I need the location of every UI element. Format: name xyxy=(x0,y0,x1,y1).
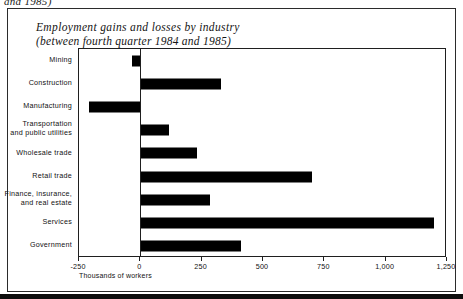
bar-row xyxy=(79,119,445,142)
y-axis-label: Transportationand public utilities xyxy=(1,121,72,138)
zero-axis-line xyxy=(140,49,141,256)
x-axis-tick xyxy=(201,257,202,261)
x-axis-tick xyxy=(385,257,386,261)
bar-row xyxy=(79,142,445,165)
y-axis-label: Mining xyxy=(1,55,72,64)
bar xyxy=(140,125,168,136)
y-axis-label: Finance, insurance,and real estate xyxy=(1,190,72,207)
x-axis-tick xyxy=(262,257,263,261)
x-axis-tick-label: -250 xyxy=(70,262,85,271)
y-axis-label: Manufacturing xyxy=(1,102,72,111)
bar xyxy=(140,218,433,229)
y-axis-label: Retail trade xyxy=(1,171,72,180)
y-axis-label: Wholesale trade xyxy=(1,148,72,157)
x-axis-tick xyxy=(323,257,324,261)
bar xyxy=(140,148,196,159)
bar xyxy=(140,171,312,182)
cutoff-preceding-text: and 1985) xyxy=(4,0,52,7)
chart-title-line-2: (between fourth quarter 1984 and 1985) xyxy=(36,34,240,48)
bar-row xyxy=(79,188,445,211)
x-axis-tick-label: 1,250 xyxy=(437,262,456,271)
x-axis-tick-label: 500 xyxy=(256,262,269,271)
chart-title: Employment gains and losses by industry … xyxy=(36,20,240,48)
bar xyxy=(89,102,141,113)
bar-row xyxy=(79,165,445,188)
y-axis-label: Government xyxy=(1,241,72,250)
bar xyxy=(140,241,241,252)
x-axis-tick-label: 750 xyxy=(317,262,330,271)
chart-title-line-1: Employment gains and losses by industry xyxy=(36,20,240,34)
x-axis-tick xyxy=(139,257,140,261)
plot-area xyxy=(78,48,446,257)
bar-row xyxy=(79,212,445,235)
x-axis-caption: Thousands of workers xyxy=(79,272,152,279)
x-axis-tick-label: 1,000 xyxy=(375,262,394,271)
page-bottom-edge xyxy=(0,294,463,299)
y-axis-label: Services xyxy=(1,218,72,227)
x-axis-tick-label: 0 xyxy=(137,262,141,271)
y-axis-labels: MiningConstructionManufacturingTransport… xyxy=(4,48,75,257)
bar-row xyxy=(79,49,445,72)
x-axis-tick xyxy=(446,257,447,261)
bar-row xyxy=(79,95,445,118)
bar xyxy=(132,55,141,66)
bar-row xyxy=(79,72,445,95)
y-axis-label: Construction xyxy=(1,79,72,88)
x-axis-tick-label: 250 xyxy=(194,262,207,271)
bar-row xyxy=(79,235,445,258)
x-axis-tick xyxy=(78,257,79,261)
bar-series xyxy=(79,49,445,256)
bar xyxy=(140,78,221,89)
bar xyxy=(140,194,210,205)
